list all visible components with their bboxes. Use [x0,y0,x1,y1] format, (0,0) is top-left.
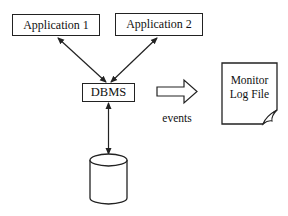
application-2-label: Application 2 [126,17,192,32]
edge-app2-dbms [111,38,157,82]
dbms-label: DBMS [91,85,126,100]
dbms-node: DBMS [82,83,135,102]
log-file-label-line1: Monitor [222,73,277,87]
events-block-arrow [157,80,197,103]
application-1-label: Application 1 [23,18,89,33]
edge-app1-dbms [58,38,106,82]
events-label: events [156,111,198,125]
log-file-label-line2: Log File [222,87,277,101]
application-1-node: Application 1 [12,14,100,36]
log-file-label: Monitor Log File [222,73,277,101]
application-2-node: Application 2 [115,13,203,36]
database-cylinder-icon [90,154,127,204]
